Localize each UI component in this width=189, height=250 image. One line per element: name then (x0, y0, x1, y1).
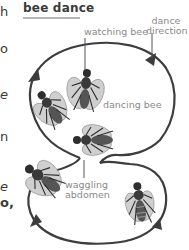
waggling-line2: abdomen (65, 190, 105, 200)
dance-direction-label: dance direction (146, 16, 186, 36)
lower-left-bee-icon (14, 149, 73, 207)
arrow-top-left-icon (28, 68, 40, 82)
watching-bee-label: watching bee (84, 27, 148, 37)
arrow-top-right-icon (145, 53, 156, 66)
dancing-bee-icon (73, 122, 113, 159)
dance-direction-line2: direction (146, 26, 186, 36)
lower-right-bee-icon (120, 180, 160, 226)
waggling-abdomen-label: waggling abdomen (65, 180, 105, 200)
dancing-bee-label: dancing bee (103, 100, 162, 110)
bee-dance-figure (0, 0, 189, 250)
